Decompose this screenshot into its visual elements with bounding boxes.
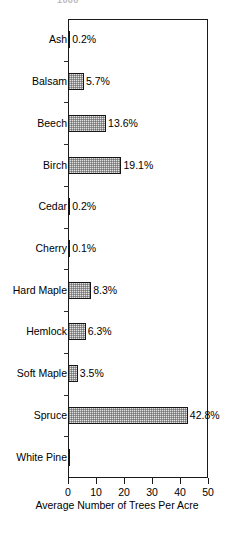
x-axis-label-0: 0 xyxy=(65,486,71,498)
x-axis-label-30: 30 xyxy=(146,486,158,498)
bar-row: White Pine xyxy=(0,436,234,478)
category-label-cedar: Cedar xyxy=(38,201,67,212)
bar-hemlock xyxy=(68,323,86,340)
category-label-ash: Ash xyxy=(49,34,67,45)
category-label-soft-maple: Soft Maple xyxy=(17,368,67,379)
bar-row: Birch19.1% xyxy=(0,144,234,186)
bar-row: Spruce42.8% xyxy=(0,395,234,437)
bar-row: Beech13.6% xyxy=(0,102,234,144)
bar-value-spruce: 42.8% xyxy=(190,410,220,421)
category-label-cherry: Cherry xyxy=(35,243,67,254)
category-label-balsam: Balsam xyxy=(32,76,67,87)
bar-balsam xyxy=(68,73,84,90)
bar-hard-maple xyxy=(68,282,91,299)
bar-value-hemlock: 6.3% xyxy=(88,326,112,337)
clipped-header-text: 1000 xyxy=(57,0,79,5)
category-label-white-pine: White Pine xyxy=(16,452,67,463)
bar-ash xyxy=(68,31,70,48)
category-label-birch: Birch xyxy=(43,160,67,171)
bar-row: Cedar0.2% xyxy=(0,186,234,228)
x-axis-label-10: 10 xyxy=(90,486,102,498)
bar-value-cedar: 0.2% xyxy=(72,201,96,212)
bar-row: Hard Maple8.3% xyxy=(0,269,234,311)
bar-row: Balsam5.7% xyxy=(0,61,234,103)
bar-rows: Ash0.2%Balsam5.7%Beech13.6%Birch19.1%Ced… xyxy=(0,19,234,478)
bar-spruce xyxy=(68,407,188,424)
x-axis-label-50: 50 xyxy=(202,486,214,498)
x-axis-label-40: 40 xyxy=(174,486,186,498)
bar-value-balsam: 5.7% xyxy=(86,76,110,87)
category-label-spruce: Spruce xyxy=(34,410,67,421)
x-axis-tick-10 xyxy=(96,478,97,484)
bar-white-pine xyxy=(68,449,70,466)
bar-value-soft-maple: 3.5% xyxy=(80,368,104,379)
bar-value-ash: 0.2% xyxy=(72,34,96,45)
bar-cedar xyxy=(68,198,70,215)
x-axis-tick-labels: 01020304050 xyxy=(0,486,234,500)
category-label-hard-maple: Hard Maple xyxy=(13,285,67,296)
bar-value-cherry: 0.1% xyxy=(72,243,96,254)
tree-species-bar-chart: 1000 Ash0.2%Balsam5.7%Beech13.6%Birch19.… xyxy=(0,0,234,536)
category-label-hemlock: Hemlock xyxy=(26,326,67,337)
bar-row: Cherry0.1% xyxy=(0,228,234,270)
bar-value-birch: 19.1% xyxy=(123,160,153,171)
bar-beech xyxy=(68,115,106,132)
bar-value-hard-maple: 8.3% xyxy=(93,285,117,296)
x-axis-label-20: 20 xyxy=(118,486,130,498)
bar-row: Ash0.2% xyxy=(0,19,234,61)
x-axis-tick-40 xyxy=(180,478,181,484)
bar-row: Soft Maple3.5% xyxy=(0,353,234,395)
x-axis-ticks xyxy=(0,478,234,486)
bar-cherry xyxy=(68,240,70,257)
bar-value-beech: 13.6% xyxy=(108,118,138,129)
x-axis-tick-30 xyxy=(152,478,153,484)
x-axis-tick-20 xyxy=(124,478,125,484)
bar-row: Hemlock6.3% xyxy=(0,311,234,353)
bar-birch xyxy=(68,157,121,174)
x-axis-tick-50 xyxy=(208,478,209,484)
x-axis-title: Average Number of Trees Per Acre xyxy=(0,499,234,511)
bar-soft-maple xyxy=(68,365,78,382)
category-label-beech: Beech xyxy=(37,118,67,129)
x-axis-tick-0 xyxy=(68,478,69,484)
